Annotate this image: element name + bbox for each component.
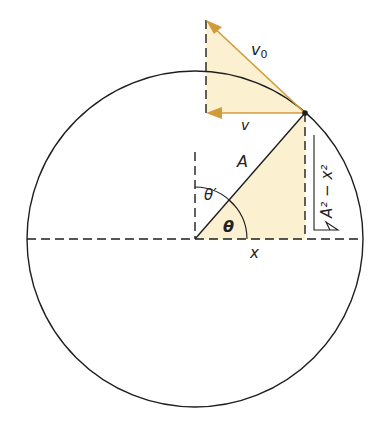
label-theta-prime: θ′	[204, 186, 217, 204]
label-v0: v0	[251, 40, 267, 61]
particle-point	[302, 110, 308, 116]
reference-circle-diagram: v0 v A θ′ θ x A² − x²	[0, 0, 385, 436]
label-x: x	[249, 244, 259, 262]
label-sqrt-expr: A² − x²	[318, 165, 336, 219]
label-v: v	[241, 117, 250, 133]
sqrt-expression: A² − x²	[314, 135, 338, 230]
label-theta: θ	[223, 217, 234, 236]
label-A: A	[236, 152, 248, 171]
